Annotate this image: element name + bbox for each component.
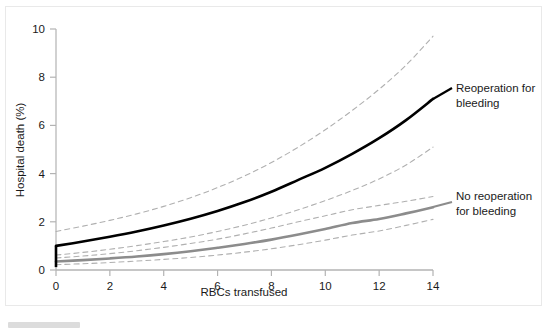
reoperation-leader-line [433,88,452,99]
y-tick-label: 10 [32,23,45,35]
y-tick-label: 6 [39,119,45,131]
y-axis-title: Hospital death (%) [14,103,26,198]
y-tick-label: 4 [39,168,46,180]
y-axis-ticks [50,29,56,270]
x-axis-title: RBCs transfused [201,286,288,298]
y-tick-label: 0 [39,264,45,276]
y-tick-label: 8 [39,71,45,83]
x-tick-label: 12 [373,280,386,292]
x-tick-label: 4 [161,280,168,292]
annotation-reoperation-line1: Reoperation for [456,82,535,94]
chart-canvas: 0246810 02468101214 RBCs transfused Hosp… [0,0,550,332]
annotation-no-reoperation-line1: No reoperation [456,190,532,202]
y-axis: 0246810 [32,23,56,276]
y-tick-label: 2 [39,216,45,228]
page-footer-bar [8,322,80,328]
figure-root: 0246810 02468101214 RBCs transfused Hosp… [0,0,550,332]
y-axis-tick-labels: 0246810 [32,23,45,276]
no-reoperation-leader-line [433,202,452,207]
x-tick-label: 0 [53,280,59,292]
x-tick-label: 10 [319,280,332,292]
x-tick-label: 14 [427,280,440,292]
data-series-layer [56,36,433,267]
x-axis-ticks [56,270,433,276]
annotation-reoperation-line2: bleeding [456,97,499,109]
annotation-no-reoperation-line2: for bleeding [456,205,516,217]
series-curve [56,99,433,246]
x-tick-label: 2 [107,280,113,292]
